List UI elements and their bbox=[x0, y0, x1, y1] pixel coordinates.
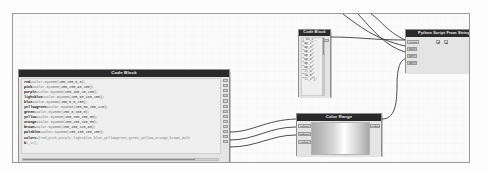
code-block-main-output-port-5[interactable] bbox=[223, 105, 228, 108]
code-block-small-output-port-0[interactable] bbox=[324, 39, 329, 42]
code-block-main-output-port-1[interactable] bbox=[223, 84, 228, 87]
code-block-main-output-port-3[interactable] bbox=[223, 94, 228, 97]
code-line: colors=[red,pink,purple,lightblue,blue,y… bbox=[24, 136, 218, 141]
color-range-input-indices[interactable]: indices bbox=[298, 132, 311, 137]
wire-codeblock-small-to-python-script bbox=[331, 37, 405, 40]
code-block-main-output-port-4[interactable] bbox=[223, 99, 228, 102]
code-block-main-output-port-7[interactable] bbox=[223, 115, 228, 118]
wire-colorrange-to-python-in2 bbox=[382, 59, 405, 119]
color-range-input-value[interactable]: value bbox=[298, 140, 311, 145]
code-block-main-output-port-6[interactable] bbox=[223, 110, 228, 113]
color-range-input-colors[interactable]: colors bbox=[298, 124, 311, 129]
color-range-gradient-preview bbox=[311, 122, 370, 155]
python-input-in0[interactable]: IN[0] bbox=[407, 47, 417, 52]
code-block-main-output-port-9[interactable] bbox=[223, 125, 228, 128]
color-range-output-color[interactable]: color bbox=[370, 124, 380, 129]
wire-offscreen-to-python-script-alt bbox=[371, 14, 405, 40]
node-color-range[interactable]: Color Range colors indices value color bbox=[296, 113, 382, 156]
node-python-script-from-string[interactable]: Python Script From String script IN[0] I… bbox=[405, 29, 470, 73]
node-code-block-small[interactable]: Code Block ["ws_1","wp_2","wp_3","wp_4",… bbox=[298, 29, 331, 97]
python-input-in2[interactable]: IN[2] bbox=[407, 61, 417, 66]
code-block-small-vscrollbar[interactable] bbox=[322, 37, 325, 96]
code-block-main-editor[interactable]: red=Color.ByARGB(255,255,0,0);pink=Color… bbox=[21, 78, 221, 154]
code-block-main-output-port-2[interactable] bbox=[223, 89, 228, 92]
code-line: "ll_1"]; bbox=[303, 78, 323, 82]
code-block-main-output-port-0[interactable] bbox=[223, 79, 228, 82]
wire-codeblock-to-colorrange-indices bbox=[230, 127, 296, 140]
node-code-block-main[interactable]: Code Block red=Color.ByARGB(255,255,0,0)… bbox=[18, 69, 230, 163]
wire-codeblock-to-colorrange-colors bbox=[230, 119, 296, 132]
code-block-main-output-port-8[interactable] bbox=[223, 120, 228, 123]
wire-offscreen-to-python-in0 bbox=[343, 14, 405, 46]
wire-codeblock-to-colorrange-value bbox=[230, 135, 296, 147]
dynamo-canvas[interactable]: Code Block red=Color.ByARGB(255,255,0,0)… bbox=[12, 13, 470, 163]
python-decrement-button[interactable]: ▼ bbox=[436, 40, 440, 44]
code-block-main-hscrollbar[interactable] bbox=[22, 158, 219, 161]
code-line: bl,a#]; bbox=[24, 141, 218, 146]
python-increment-button[interactable]: ▲ bbox=[444, 40, 448, 44]
code-block-main-output-port-12[interactable] bbox=[223, 140, 228, 143]
code-block-main-output-port-10[interactable] bbox=[223, 130, 228, 133]
code-block-main-output-port-11[interactable] bbox=[223, 135, 228, 138]
python-input-script[interactable]: script bbox=[407, 40, 419, 45]
hscrollbar-thumb[interactable] bbox=[23, 159, 195, 160]
code-block-small-editor[interactable]: ["ws_1","wp_2","wp_3","wp_4","wp_5","wp_… bbox=[301, 37, 325, 96]
wire-offscreen-to-python-in1 bbox=[358, 14, 405, 52]
screenshot-root: Code Block red=Color.ByARGB(255,255,0,0)… bbox=[0, 0, 488, 174]
python-input-in1[interactable]: IN[1] bbox=[407, 54, 417, 59]
